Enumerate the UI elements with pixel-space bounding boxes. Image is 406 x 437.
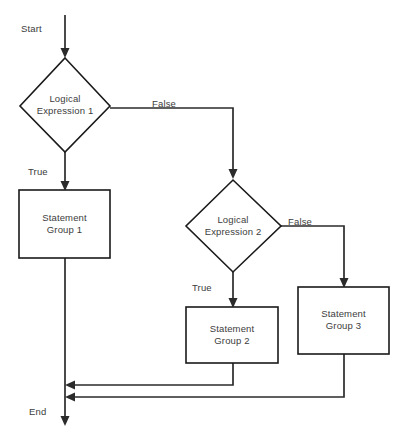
terminal-label-start: Start	[21, 23, 42, 34]
process-node-3-label: Statement Group 3	[300, 308, 388, 332]
edge-decision2-false	[281, 226, 344, 281]
arrowhead-start-to-decision1	[61, 48, 70, 58]
edge-label-decision1-false: False	[152, 98, 176, 109]
arrowhead-decision1-false	[229, 169, 238, 179]
edge-decision1-false	[110, 108, 233, 172]
process-node-2-label: Statement Group 2	[188, 323, 276, 347]
decision-node-1-label: Logical Expression 1	[22, 93, 108, 117]
arrowhead-process2-merge	[65, 381, 75, 390]
arrowhead-end	[61, 416, 70, 426]
flowchart-canvas: Start End Logical Expression 1 Statement…	[0, 0, 406, 437]
edge-label-decision2-true: True	[192, 282, 212, 293]
edge-label-decision1-true: True	[28, 166, 48, 177]
terminal-label-end: End	[29, 406, 46, 417]
process-node-1-label: Statement Group 1	[22, 212, 108, 236]
edge-process2-to-merge	[72, 363, 233, 385]
edge-label-decision2-false: False	[288, 216, 312, 227]
decision-node-2-label: Logical Expression 2	[189, 214, 277, 238]
arrowhead-process3-merge	[65, 393, 75, 402]
